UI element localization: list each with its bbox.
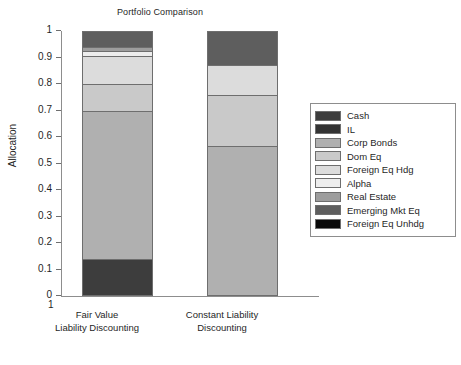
legend-swatch-icon <box>315 151 341 161</box>
y-tick-label: 0.5 <box>38 157 52 168</box>
y-tick-mark <box>56 189 61 190</box>
y-tick-label: 0.2 <box>38 236 52 247</box>
bar-segment[interactable] <box>82 111 153 259</box>
legend-label: Corp Bonds <box>347 137 397 148</box>
bar-segment[interactable] <box>207 146 278 296</box>
y-tick-mark <box>56 136 61 137</box>
bar-segment[interactable] <box>82 259 153 296</box>
legend-label: Alpha <box>347 178 371 189</box>
legend-label: Cash <box>347 110 369 121</box>
legend-label: Foreign Eq Hdg <box>347 164 414 175</box>
legend-swatch-icon <box>315 111 341 121</box>
x-category-line: Liability Discounting <box>27 321 167 334</box>
legend-swatch-icon <box>315 192 341 202</box>
legend-item[interactable]: Foreign Eq Unhdg <box>315 217 451 230</box>
x-category-label-1: Constant LiabilityDiscounting <box>152 308 292 334</box>
legend-swatch-icon <box>315 205 341 215</box>
y-tick-label: 0.9 <box>38 51 52 62</box>
legend-swatch-icon <box>315 219 341 229</box>
bar-segment[interactable] <box>82 31 153 47</box>
y-tick-label: 1 <box>46 24 52 35</box>
legend-item[interactable]: Dom Eq <box>315 150 451 163</box>
chart-title: Portfolio Comparison <box>0 7 320 17</box>
chart-figure: Portfolio Comparison Allocation 00.10.20… <box>0 0 461 365</box>
y-tick-mark <box>56 57 61 58</box>
legend-item[interactable]: Cash <box>315 109 451 122</box>
y-tick-mark <box>56 269 61 270</box>
legend-item[interactable]: Foreign Eq Hdg <box>315 163 451 176</box>
x-category-line: Discounting <box>152 321 292 334</box>
bar-segment[interactable] <box>207 31 278 65</box>
legend-swatch-icon <box>315 138 341 148</box>
y-tick-label: 0.8 <box>38 77 52 88</box>
chart-legend: CashILCorp BondsDom EqForeign Eq HdgAlph… <box>310 103 456 237</box>
plot-area <box>62 31 297 296</box>
legend-label: Real Estate <box>347 191 396 202</box>
legend-swatch-icon <box>315 165 341 175</box>
y-tick-mark <box>56 295 61 296</box>
bar-segment[interactable] <box>207 95 278 147</box>
x-category-label-0: Fair ValueLiability Discounting <box>27 308 167 334</box>
y-tick-mark <box>56 216 61 217</box>
legend-item[interactable]: IL <box>315 123 451 136</box>
y-tick-mark <box>56 83 61 84</box>
y-tick-mark <box>56 30 61 31</box>
bar-segment[interactable] <box>82 51 153 56</box>
legend-item[interactable]: Emerging Mkt Eq <box>315 204 451 217</box>
y-tick-mark <box>56 163 61 164</box>
legend-label: Dom Eq <box>347 151 381 162</box>
y-tick-mark <box>56 110 61 111</box>
legend-item[interactable]: Corp Bonds <box>315 136 451 149</box>
legend-label: Foreign Eq Unhdg <box>347 218 424 229</box>
legend-label: Emerging Mkt Eq <box>347 205 420 216</box>
legend-item[interactable]: Alpha <box>315 177 451 190</box>
y-tick-label: 0.4 <box>38 183 52 194</box>
legend-swatch-icon <box>315 178 341 188</box>
x-category-line: Fair Value <box>27 308 167 321</box>
bar-segment[interactable] <box>82 84 153 111</box>
legend-swatch-icon <box>315 124 341 134</box>
legend-label: IL <box>347 124 355 135</box>
y-tick-label: 0.6 <box>38 130 52 141</box>
y-tick-label: 0.7 <box>38 104 52 115</box>
legend-item[interactable]: Real Estate <box>315 190 451 203</box>
x-axis-line <box>61 296 319 297</box>
bar-segment[interactable] <box>82 56 153 84</box>
y-axis-label: Allocation <box>7 111 18 181</box>
y-tick-mark <box>56 242 61 243</box>
bar-segment[interactable] <box>82 47 153 51</box>
y-tick-label: 0.1 <box>38 263 52 274</box>
bar-segment[interactable] <box>207 65 278 94</box>
y-tick-label: 0.3 <box>38 210 52 221</box>
x-category-line: Constant Liability <box>152 308 292 321</box>
